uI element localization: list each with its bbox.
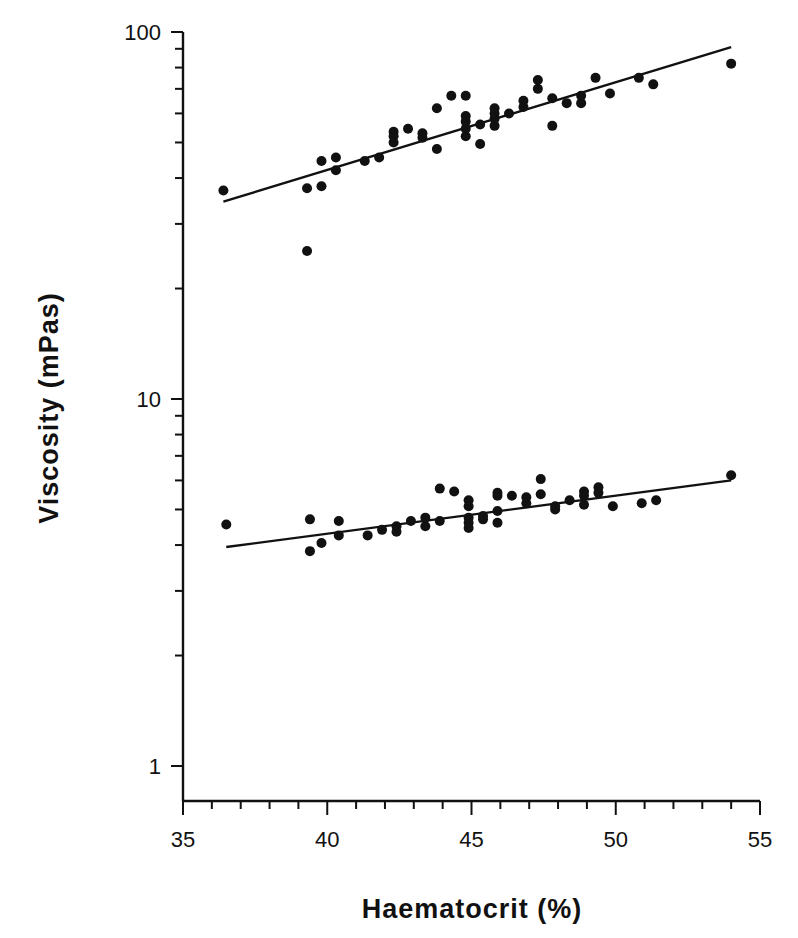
series-lower <box>221 470 736 556</box>
data-point <box>377 525 387 535</box>
data-point <box>305 546 315 556</box>
data-point <box>391 521 401 531</box>
data-point <box>334 516 344 526</box>
x-tick-label: 35 <box>171 827 195 852</box>
data-point <box>302 246 312 256</box>
tick-labels: 3540455055110100 <box>124 20 772 852</box>
data-point <box>218 185 228 195</box>
data-point <box>417 128 427 138</box>
data-point <box>518 96 528 106</box>
data-point <box>637 498 647 508</box>
data-point <box>507 491 517 501</box>
data-point <box>363 530 373 540</box>
data-point <box>547 93 557 103</box>
data-point <box>449 486 459 496</box>
data-point <box>533 75 543 85</box>
data-point <box>591 73 601 83</box>
data-point <box>435 516 445 526</box>
data-point <box>492 506 502 516</box>
data-point <box>432 144 442 154</box>
data-point <box>221 520 231 530</box>
data-point <box>446 91 456 101</box>
series-upper <box>218 47 736 256</box>
data-point <box>550 501 560 511</box>
data-point <box>420 521 430 531</box>
x-axis-title: Haematocrit (%) <box>362 894 583 924</box>
axes <box>183 32 760 801</box>
data-point <box>302 183 312 193</box>
data-point <box>562 98 572 108</box>
data-point <box>475 119 485 129</box>
data-point <box>478 511 488 521</box>
data-point <box>403 124 413 134</box>
data-point <box>547 121 557 131</box>
data-point <box>420 513 430 523</box>
data-point <box>464 513 474 523</box>
y-tick-label: 10 <box>137 387 161 412</box>
x-tick-label: 55 <box>748 827 772 852</box>
data-point <box>593 482 603 492</box>
y-axis-title: Viscosity (mPas) <box>34 292 64 524</box>
data-point <box>504 108 514 118</box>
data-point <box>536 474 546 484</box>
data-point <box>464 495 474 505</box>
data-point <box>579 500 589 510</box>
data-point <box>331 165 341 175</box>
data-point <box>475 139 485 149</box>
data-point <box>490 103 500 113</box>
data-point <box>579 486 589 496</box>
y-tick-label: 100 <box>124 20 161 45</box>
data-point <box>536 489 546 499</box>
data-point <box>533 84 543 94</box>
y-tick-label: 1 <box>149 754 161 779</box>
data-point <box>305 514 315 524</box>
data-point <box>374 153 384 163</box>
data-point <box>565 495 575 505</box>
data-point <box>576 91 586 101</box>
data-point <box>726 470 736 480</box>
data-point <box>726 59 736 69</box>
data-point <box>634 73 644 83</box>
data-point <box>389 127 399 137</box>
data-point <box>316 156 326 166</box>
data-point <box>316 181 326 191</box>
x-tick-label: 50 <box>604 827 628 852</box>
data-point <box>651 495 661 505</box>
data-point <box>406 516 416 526</box>
data-point <box>316 538 326 548</box>
data-point <box>331 153 341 163</box>
data-point <box>608 501 618 511</box>
axis-ticks <box>171 32 760 815</box>
data-point <box>461 91 471 101</box>
data-point <box>605 88 615 98</box>
data-point <box>461 111 471 121</box>
data-point <box>492 518 502 528</box>
data-point <box>648 79 658 89</box>
data-point <box>432 103 442 113</box>
x-tick-label: 40 <box>315 827 339 852</box>
data-point <box>492 488 502 498</box>
data-point <box>360 156 370 166</box>
data-point <box>435 484 445 494</box>
viscosity-haematocrit-chart: 3540455055110100 Haematocrit (%) Viscosi… <box>0 0 798 938</box>
x-tick-label: 45 <box>459 827 483 852</box>
data-point <box>334 530 344 540</box>
data-point <box>521 492 531 502</box>
